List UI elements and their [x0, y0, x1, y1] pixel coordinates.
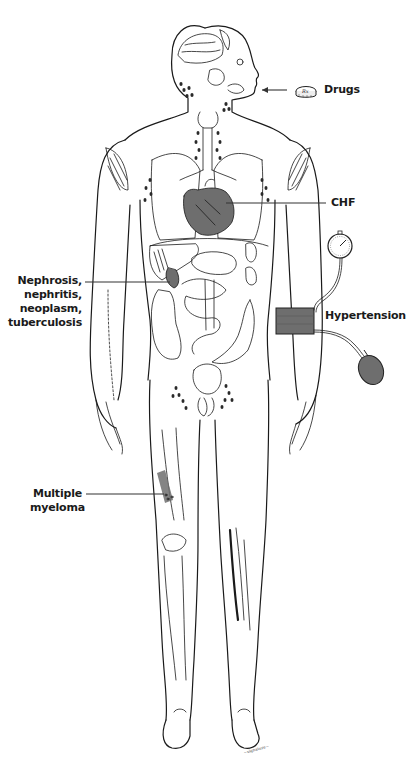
label-renal-disease: Nephrosis, nephritis, neoplasm, tubercul… [4, 274, 82, 330]
label-chf: CHF [331, 196, 355, 210]
drugs-arrow [262, 87, 287, 93]
head [125, 26, 290, 140]
label-hypertension: Hypertension [325, 309, 406, 323]
label-myeloma-line-1: Multiple [30, 487, 82, 501]
svg-text:Rx: Rx [301, 88, 309, 94]
label-multiple-myeloma: Multiple myeloma [30, 487, 82, 515]
blood-pressure-cuff-icon [276, 308, 314, 334]
inflation-bulb-icon [314, 330, 388, 389]
lymph-nodes-groin [172, 384, 234, 410]
label-renal-line-1: Nephrosis, [4, 274, 82, 288]
label-myeloma-line-2: myeloma [30, 501, 82, 515]
sphygmomanometer-gauge-icon [314, 231, 352, 312]
label-drugs: Drugs [324, 83, 360, 97]
lymph-nodes-neck [179, 82, 230, 112]
label-renal-line-4: tuberculosis [4, 316, 82, 330]
femur-lesion [157, 470, 173, 503]
label-renal-line-3: neoplasm, [4, 302, 82, 316]
pill-rx-icon: Rx [296, 87, 316, 99]
label-renal-line-2: nephritis, [4, 288, 82, 302]
anatomy-figure: ~signature~ Rx [0, 0, 408, 763]
legs: ~signature~ [149, 380, 269, 755]
torso [90, 128, 322, 454]
